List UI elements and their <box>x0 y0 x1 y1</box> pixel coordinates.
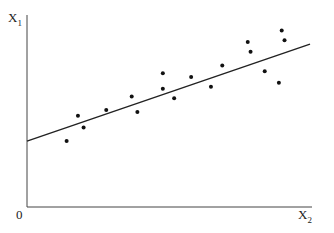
data-point <box>130 94 134 98</box>
data-point <box>76 114 80 118</box>
data-point <box>82 125 86 129</box>
data-point <box>189 75 193 79</box>
y-axis-label: X1 <box>8 10 22 28</box>
data-point <box>161 71 165 75</box>
data-points <box>65 28 287 143</box>
data-point <box>65 139 69 143</box>
data-point <box>246 40 250 44</box>
scatter-plot <box>0 0 334 233</box>
data-point <box>249 50 253 54</box>
data-point <box>220 63 224 67</box>
x-axis-label: X2 <box>298 207 312 225</box>
regression-line <box>27 44 310 141</box>
data-point <box>280 28 284 32</box>
data-point <box>209 85 213 89</box>
data-point <box>263 69 267 73</box>
data-point <box>172 96 176 100</box>
data-point <box>283 38 287 42</box>
data-point <box>277 81 281 85</box>
data-point <box>135 110 139 114</box>
origin-label: 0 <box>16 207 23 223</box>
data-point <box>161 87 165 91</box>
data-point <box>104 108 108 112</box>
